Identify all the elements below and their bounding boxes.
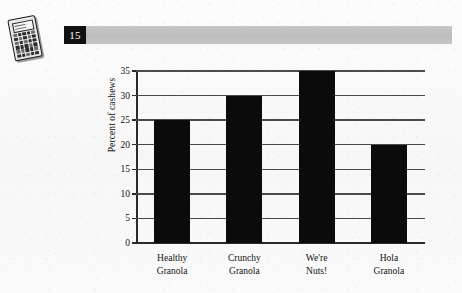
bar bbox=[154, 120, 190, 243]
header-rule bbox=[86, 26, 452, 44]
x-tick-label: We'reNuts! bbox=[306, 252, 328, 277]
y-tick-label: 5 bbox=[125, 213, 130, 223]
page-number: 15 bbox=[64, 26, 86, 44]
y-tick-label: 35 bbox=[121, 66, 131, 76]
calculator-keypad bbox=[13, 30, 39, 58]
x-tick-label: HolaGranola bbox=[374, 252, 405, 277]
y-tick-label: 25 bbox=[121, 115, 131, 125]
y-axis-title: Percent of cashews bbox=[107, 55, 117, 175]
plot-area: 05101520253035 HealthyGranolaCrunchyGran… bbox=[136, 71, 425, 243]
gridline bbox=[136, 70, 425, 71]
y-tick-label: 10 bbox=[121, 189, 131, 199]
y-tick-label: 20 bbox=[121, 140, 131, 150]
y-axis-tick bbox=[132, 95, 136, 96]
calculator-icon bbox=[4, 13, 48, 63]
y-tick-label: 30 bbox=[121, 91, 131, 101]
bar-chart: Percent of cashews 05101520253035 Health… bbox=[86, 62, 434, 287]
y-axis-tick bbox=[132, 169, 136, 170]
bar bbox=[299, 71, 335, 243]
page-canvas: 15 Percent of cashews 05101520253035 Hea… bbox=[0, 0, 462, 293]
x-tick-label: HealthyGranola bbox=[157, 252, 188, 277]
y-axis-tick bbox=[132, 70, 136, 71]
y-axis-tick bbox=[132, 144, 136, 145]
x-tick-label: CrunchyGranola bbox=[228, 252, 261, 277]
y-axis-tick bbox=[132, 193, 136, 194]
calculator-body bbox=[7, 15, 42, 62]
y-axis-tick bbox=[132, 119, 136, 120]
bar bbox=[226, 96, 262, 243]
y-axis-tick bbox=[132, 242, 136, 243]
y-tick-label: 0 bbox=[125, 238, 130, 248]
y-tick-label: 15 bbox=[121, 164, 131, 174]
y-axis-tick bbox=[132, 218, 136, 219]
page-header-band: 15 bbox=[64, 26, 452, 44]
bar bbox=[371, 145, 407, 243]
gridline bbox=[136, 95, 425, 96]
